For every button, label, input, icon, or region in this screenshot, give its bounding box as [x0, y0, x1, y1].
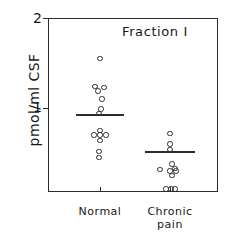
data-point: [103, 132, 108, 137]
y-tick-label-2: 2: [24, 10, 42, 26]
mean-line: [145, 151, 195, 153]
x-tick-mark: [100, 187, 101, 192]
x-axis-label-normal: Normal: [62, 205, 138, 218]
data-point: [96, 149, 101, 154]
data-point: [95, 88, 100, 93]
x-tick-mark: [170, 187, 171, 192]
mean-line: [76, 114, 124, 116]
data-point: [169, 173, 174, 178]
data-point: [97, 132, 102, 137]
x-axis-label-chronic-line1: Chronic: [132, 205, 208, 218]
y-tick-label-1: 1: [24, 99, 42, 115]
data-point: [157, 167, 162, 172]
plot-frame: [48, 18, 218, 192]
data-point: [97, 56, 102, 61]
data-point: [96, 155, 101, 160]
data-point: [97, 138, 102, 143]
data-point: [101, 85, 106, 90]
data-point: [99, 96, 104, 101]
data-point: [91, 132, 96, 137]
scatter-plot-figure: pmol/ml CSF 2 1 Fraction I Normal Chroni…: [0, 0, 235, 243]
data-point: [172, 186, 177, 191]
plot-title: Fraction I: [122, 24, 188, 39]
data-point: [167, 131, 172, 136]
x-axis-label-chronic: Chronic pain: [132, 205, 208, 231]
x-axis-label-chronic-line2: pain: [132, 218, 208, 231]
data-point: [167, 141, 172, 146]
